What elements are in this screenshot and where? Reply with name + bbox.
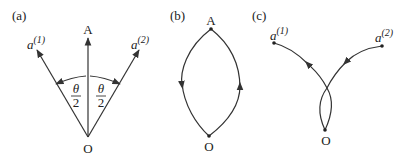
angle-arc-left	[56, 76, 86, 84]
point-a-label: A	[206, 13, 216, 28]
path-right-lower	[209, 86, 240, 136]
vector-a1-label: a(1)	[270, 25, 289, 43]
vector-a2-label: a(2)	[131, 34, 150, 52]
vector-a1-arrow	[37, 50, 88, 137]
point-a-label: A	[83, 22, 93, 37]
diagram-canvas: (a) A O a(1) a(2) θ 2 θ 2 (b) A O	[0, 0, 411, 162]
path-to-a1-mid	[308, 64, 327, 88]
svg-text:θ: θ	[73, 81, 80, 96]
path-left-lower	[182, 83, 209, 136]
point-o-dot	[207, 134, 211, 138]
loop-right-lower	[325, 88, 331, 130]
svg-text:θ: θ	[98, 81, 105, 96]
point-o-label: O	[321, 133, 330, 148]
path-right-upper	[211, 29, 240, 88]
path-left-upper	[182, 29, 211, 85]
point-o-label: O	[83, 141, 92, 156]
panel-c: (c) a(1) a(2) O	[252, 8, 394, 148]
panel-c-label: (c)	[252, 8, 266, 23]
panel-b-label: (b)	[170, 8, 185, 23]
vector-a2-label: a(2)	[375, 27, 394, 45]
point-o-dot	[323, 128, 327, 132]
point-o-label: O	[204, 139, 213, 154]
path-from-a2-end	[327, 62, 346, 88]
vector-a1-label: a(1)	[27, 34, 46, 52]
svg-text:2: 2	[98, 95, 105, 110]
path-to-a1-end	[274, 43, 308, 64]
vector-a2-arrow	[88, 50, 139, 137]
panel-a: (a) A O a(1) a(2) θ 2 θ 2	[12, 8, 150, 156]
svg-text:2: 2	[73, 95, 80, 110]
angle-arc-right	[90, 76, 120, 84]
loop-left-lower	[320, 88, 327, 130]
panel-b: (b) A O	[170, 8, 240, 154]
half-theta-right: θ 2	[96, 81, 106, 110]
panel-a-label: (a)	[12, 8, 26, 23]
half-theta-left: θ 2	[71, 81, 81, 110]
path-from-a2-start	[346, 46, 382, 62]
